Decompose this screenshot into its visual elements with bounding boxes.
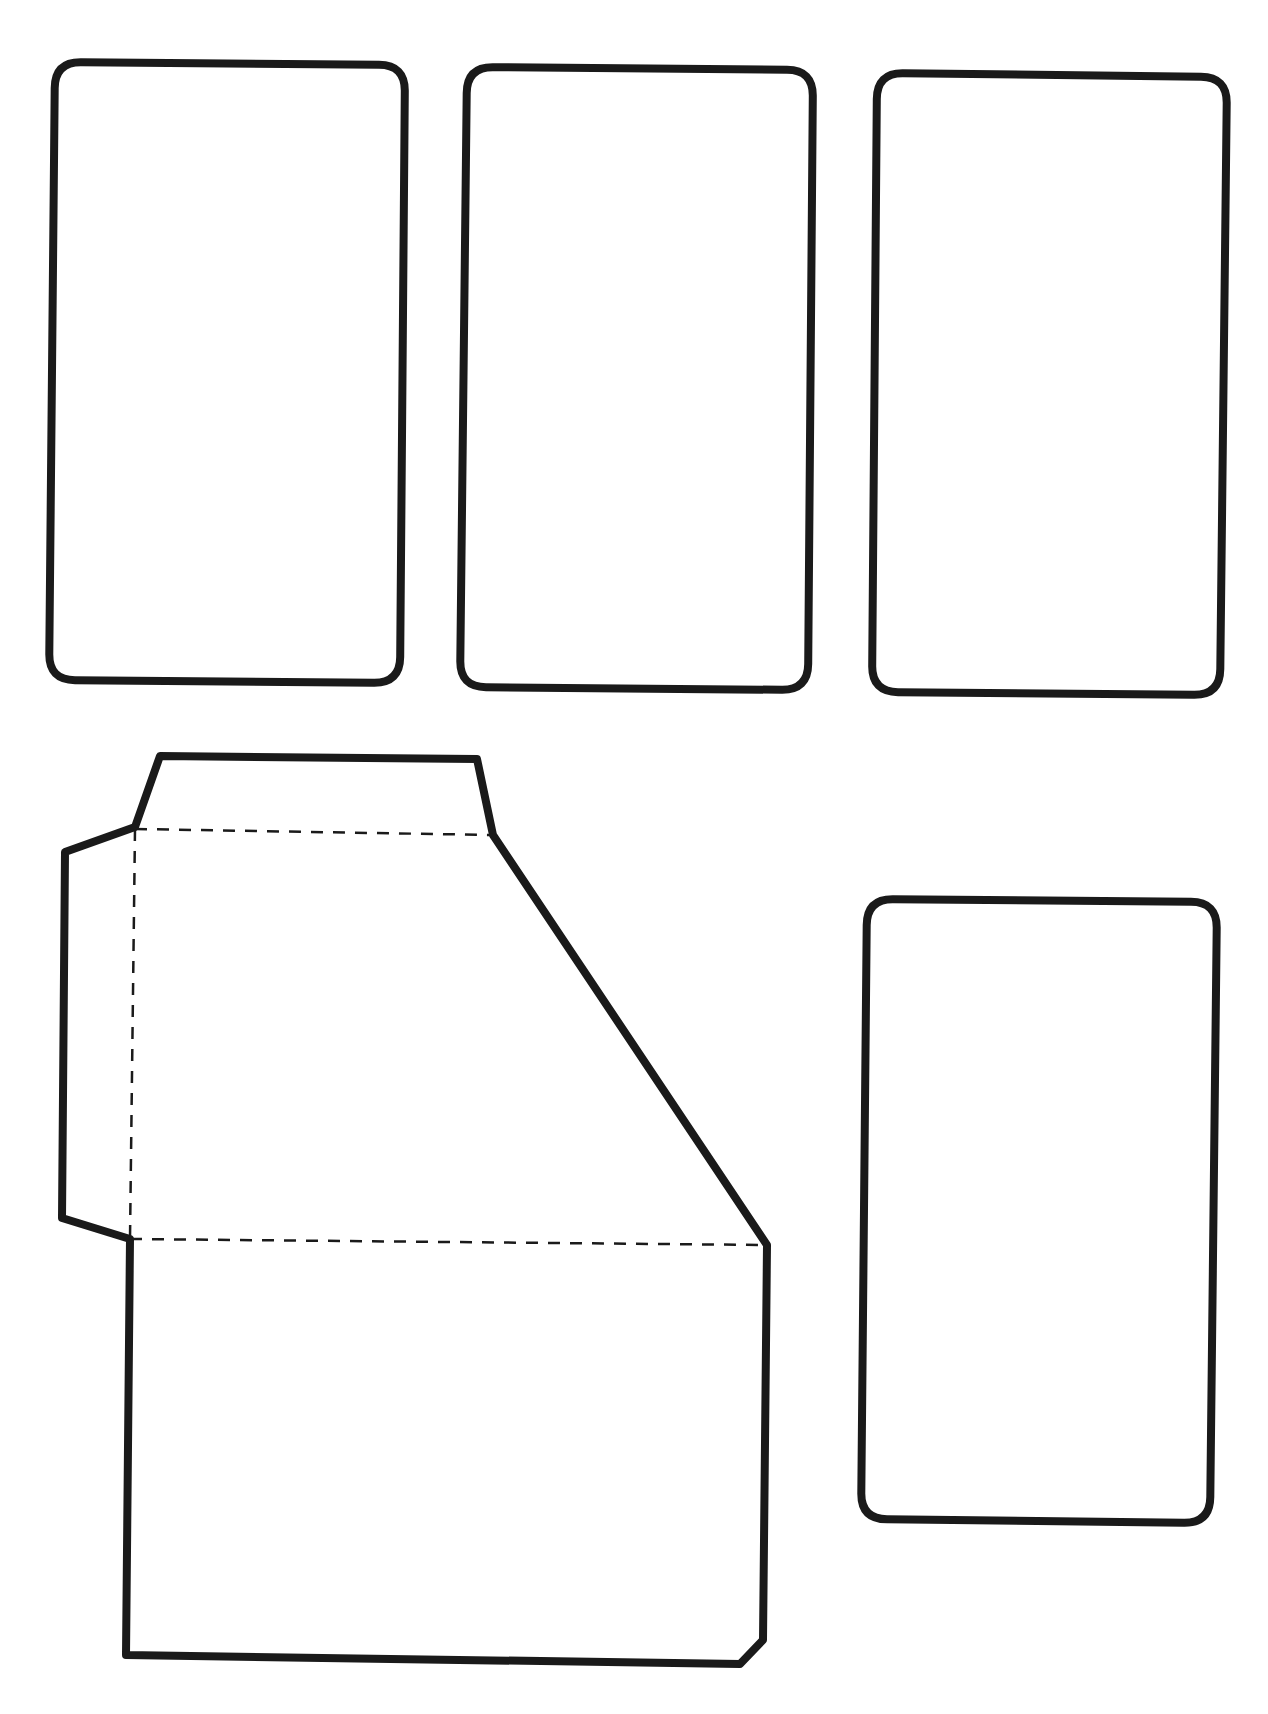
card-pocket — [62, 756, 767, 1664]
card-2-cutout — [460, 67, 813, 690]
printable-template-canvas — [0, 0, 1268, 1714]
card-1-cutout — [49, 62, 405, 683]
pocket-outline — [62, 756, 767, 1664]
card-3-cutout — [872, 73, 1227, 695]
card-4-cutout — [861, 899, 1216, 1523]
